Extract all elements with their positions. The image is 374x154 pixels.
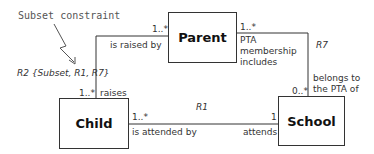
r7-school-multiplicity: 0..* (292, 86, 308, 97)
r1-child-phrase: is attended by (132, 127, 197, 138)
r7-parent-multiplicity: 1..* (240, 22, 256, 33)
class-parent[interactable]: Parent (168, 12, 237, 63)
class-school[interactable]: School (278, 96, 345, 146)
subset-constraint-annotation: Subset constraint (18, 10, 120, 21)
r2-child-multiplicity: 1..* (79, 88, 95, 99)
r1-school-multiplicity: 1 (271, 112, 277, 123)
class-child[interactable]: Child (59, 98, 129, 149)
r7-parent-phrase-line2: membership (240, 46, 297, 57)
r7-school-phrase-line1: belongs to (313, 73, 360, 84)
r7-relationship-label: R7 (316, 40, 328, 51)
r2-child-phrase: raises (100, 88, 127, 99)
class-parent-name: Parent (178, 30, 227, 45)
class-school-name: School (287, 114, 336, 129)
r7-parent-phrase-line3: includes (240, 57, 277, 68)
r2-parent-phrase: is raised by (110, 40, 162, 51)
r1-child-multiplicity: 1..* (132, 112, 148, 123)
r1-relationship-label: R1 (196, 102, 208, 113)
r2-parent-multiplicity: 1..* (152, 24, 168, 35)
class-child-name: Child (75, 116, 112, 131)
r7-parent-phrase-line1: PTA (240, 35, 256, 46)
r7-school-phrase-line2: the PTA of (313, 84, 359, 95)
r1-school-phrase: attends (243, 127, 277, 138)
r2-relationship-label: R2 {Subset, R1, R7} (17, 68, 110, 79)
